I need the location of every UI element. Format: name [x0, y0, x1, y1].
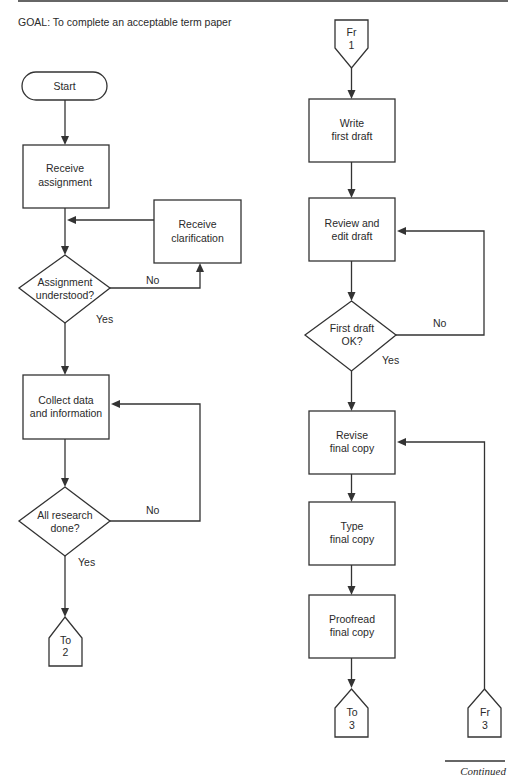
- no-label: No: [146, 504, 160, 516]
- svg-text:Review and: Review and: [325, 217, 380, 229]
- svg-text:Revise: Revise: [336, 429, 368, 441]
- from-1-connector: Fr 1: [335, 20, 368, 68]
- yes-label: Yes: [96, 313, 113, 325]
- svg-text:understood?: understood?: [36, 289, 95, 301]
- arrow-head-icon: [348, 402, 356, 411]
- svg-text:Start: Start: [53, 80, 75, 92]
- svg-text:and information: and information: [30, 407, 103, 419]
- arrow-head-icon: [348, 679, 356, 688]
- svg-text:First draft: First draft: [330, 322, 374, 334]
- receive-assignment-box: Receive assignment: [23, 145, 109, 208]
- svg-text:Collect data: Collect data: [38, 394, 94, 406]
- svg-text:Receive: Receive: [179, 218, 217, 230]
- to-3-connector: To 3: [335, 689, 368, 737]
- arrow-head-icon: [196, 263, 204, 272]
- svg-text:All research: All research: [37, 509, 93, 521]
- arrow-head-icon: [61, 608, 69, 617]
- arrow-head-icon: [61, 136, 69, 145]
- yes-label: Yes: [78, 556, 95, 568]
- arrow-head-icon: [348, 90, 356, 99]
- continued-label: Continued: [460, 765, 506, 777]
- type-final-copy-box: Type final copy: [309, 502, 395, 565]
- svg-text:Proofread: Proofread: [329, 613, 375, 625]
- arrow-head-icon: [348, 292, 356, 301]
- svg-text:assignment: assignment: [38, 176, 92, 188]
- svg-text:To: To: [60, 634, 71, 646]
- svg-text:2: 2: [63, 646, 69, 658]
- svg-text:Write: Write: [340, 117, 364, 129]
- arrow-head-icon: [61, 366, 69, 375]
- collect-data-box: Collect data and information: [23, 375, 109, 439]
- svg-text:OK?: OK?: [341, 335, 362, 347]
- svg-text:Type: Type: [341, 520, 364, 532]
- svg-text:Assignment: Assignment: [38, 276, 93, 288]
- flowchart-canvas: GOAL: To complete an acceptable term pap…: [0, 0, 513, 777]
- start-terminator: Start: [22, 72, 107, 100]
- svg-text:1: 1: [349, 39, 355, 51]
- svg-text:3: 3: [349, 719, 355, 731]
- arrow-head-icon: [61, 478, 69, 487]
- svg-text:edit draft: edit draft: [332, 230, 373, 242]
- svg-text:final copy: final copy: [330, 533, 375, 545]
- svg-text:To: To: [346, 706, 357, 718]
- arrow-head-icon: [348, 586, 356, 595]
- write-first-draft-box: Write first draft: [309, 99, 395, 162]
- no-label: No: [146, 274, 160, 286]
- receive-clarification-box: Receive clarification: [154, 200, 241, 263]
- svg-text:final copy: final copy: [330, 626, 375, 638]
- arrow-head-icon: [397, 227, 406, 235]
- svg-text:Fr: Fr: [480, 706, 490, 718]
- svg-text:Receive: Receive: [46, 162, 84, 174]
- arrow-head-icon: [111, 400, 120, 408]
- proofread-final-copy-box: Proofread final copy: [309, 595, 395, 658]
- goal-text: GOAL: To complete an acceptable term pap…: [18, 16, 232, 28]
- review-edit-draft-box: Review and edit draft: [309, 198, 395, 261]
- svg-text:clarification: clarification: [171, 232, 224, 244]
- arrow-head-icon: [67, 216, 76, 224]
- svg-text:done?: done?: [50, 522, 79, 534]
- arrow-head-icon: [397, 438, 406, 446]
- svg-text:Fr: Fr: [347, 26, 357, 38]
- all-research-done-decision: All research done?: [19, 487, 110, 556]
- no-label: No: [433, 317, 447, 329]
- svg-text:3: 3: [482, 719, 488, 731]
- arrow-head-icon: [348, 493, 356, 502]
- arrow-head-icon: [348, 189, 356, 198]
- yes-label: Yes: [382, 354, 399, 366]
- revise-final-copy-box: Revise final copy: [309, 411, 395, 474]
- svg-text:final copy: final copy: [330, 442, 375, 454]
- arrow-head-icon: [61, 246, 69, 255]
- return-line: [406, 442, 485, 689]
- from-3-connector: Fr 3: [468, 689, 501, 737]
- to-2-connector: To 2: [49, 617, 82, 666]
- svg-text:first draft: first draft: [332, 130, 373, 142]
